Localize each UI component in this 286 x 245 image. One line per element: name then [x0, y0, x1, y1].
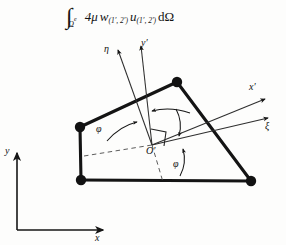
phi-arc-upper-left [107, 122, 137, 141]
x-prime-axis-label: x′ [249, 82, 256, 92]
xi-axis [152, 118, 268, 145]
global-y-axis-label: y [5, 146, 9, 156]
figure-root: ∫Ωe4μw(1′, 2′)u(1′, 2′)dΩ [0, 0, 286, 245]
edge-bottom [81, 180, 251, 181]
phi-arc-upper-right [152, 109, 190, 113]
node-top [172, 77, 182, 87]
local-axes [118, 46, 268, 145]
x-prime-axis [152, 99, 265, 145]
node-bottom-left [76, 175, 86, 185]
xi-axis-label: ξ [265, 121, 269, 131]
edge-left [80, 127, 81, 180]
phi-arc-center [176, 109, 180, 136]
edge-right [177, 82, 251, 181]
node-mid-left [75, 122, 85, 132]
edge-upper-left [80, 82, 177, 127]
origin-label: O′ [146, 146, 155, 156]
phi-label-lower-right: φ [173, 159, 179, 169]
phi-arc-lower-right [180, 149, 184, 176]
global-axes [17, 153, 103, 230]
global-x-axis-label: x [95, 233, 99, 243]
phi-label-upper-left: φ [96, 124, 102, 134]
dashed-reference-horizontal [84, 145, 152, 156]
eta-axis-label: η [104, 44, 109, 54]
y-prime-axis-label: y′ [141, 38, 148, 48]
node-bottom-right [246, 176, 256, 186]
